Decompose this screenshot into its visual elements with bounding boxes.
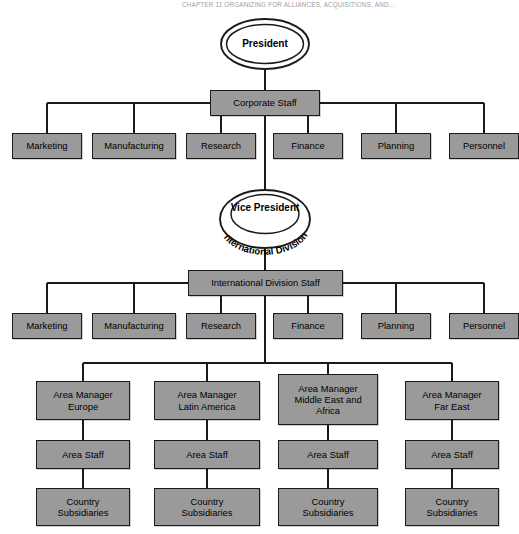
vice-president-label-line1: Vice [231,202,251,213]
node-corporate-planning[interactable]: Planning [361,133,431,159]
label: Research [199,320,243,331]
node-area-staff-middle-east-africa[interactable]: Area Staff [278,440,378,469]
label-line-1: Area Manager [420,389,483,400]
label: Manufacturing [102,140,165,151]
vice-president-label-line2: President [254,202,300,213]
label-line-1: Country [179,496,234,507]
node-area-manager-middle-east-africa[interactable]: Area Manager Middle East and Africa [278,374,378,425]
label-line-2: Subsidiaries [424,507,479,518]
label-line-1: Country [424,496,479,507]
node-area-manager-europe[interactable]: Area Manager Europe [36,381,130,420]
label-line-2: Middle East and [292,394,363,405]
label: Finance [289,140,326,151]
label-line-2: Far East [420,401,483,412]
node-division-marketing[interactable]: Marketing [12,313,82,339]
label: Personnel [461,140,507,151]
label: Planning [376,140,417,151]
label: Personnel [461,320,507,331]
label-line-1: Country [300,496,355,507]
node-division-personnel[interactable]: Personnel [449,313,519,339]
node-country-subsidiaries-europe[interactable]: Country Subsidiaries [36,488,130,526]
node-corporate-manufacturing[interactable]: Manufacturing [92,133,176,159]
node-country-subsidiaries-far-east[interactable]: Country Subsidiaries [405,488,499,526]
node-area-manager-latin-america[interactable]: Area Manager Latin America [154,381,260,420]
node-division-manufacturing[interactable]: Manufacturing [92,313,176,339]
node-division-finance[interactable]: Finance [273,313,343,339]
president-label: President [215,38,315,50]
label-line-1: Area Manager [292,383,363,394]
node-corporate-research[interactable]: Research [186,133,256,159]
label: Finance [289,320,326,331]
node-country-subsidiaries-latin-america[interactable]: Country Subsidiaries [154,488,260,526]
label-line-2: Subsidiaries [179,507,234,518]
node-corporate-personnel[interactable]: Personnel [449,133,519,159]
label-line-1: Area Manager [51,389,114,400]
label: Area Staff [305,449,351,460]
label: Planning [376,320,417,331]
label: Marketing [24,140,69,151]
label-line-1: Area Manager [175,389,238,400]
vice-president-label: Vice President [215,202,315,214]
node-corporate-finance[interactable]: Finance [273,133,343,159]
label-line-2: Subsidiaries [300,507,355,518]
label-line-3: Africa [292,405,363,416]
node-international-division-staff-label: International Division Staff [209,277,322,288]
label: Area Staff [184,449,230,460]
node-division-planning[interactable]: Planning [361,313,431,339]
label-line-2: Subsidiaries [55,507,110,518]
node-corporate-staff-label: Corporate Staff [231,97,298,108]
node-corporate-staff[interactable]: Corporate Staff [210,90,320,116]
label: Manufacturing [102,320,165,331]
label: Area Staff [429,449,475,460]
node-area-staff-far-east[interactable]: Area Staff [405,440,499,469]
node-international-division-staff[interactable]: International Division Staff [188,270,343,296]
label: Research [199,140,243,151]
node-corporate-marketing[interactable]: Marketing [12,133,82,159]
node-country-subsidiaries-middle-east-africa[interactable]: Country Subsidiaries [278,488,378,526]
node-area-staff-europe[interactable]: Area Staff [36,440,130,469]
label: Marketing [24,320,69,331]
label-line-2: Latin America [175,401,238,412]
label-line-1: Country [55,496,110,507]
node-area-staff-latin-america[interactable]: Area Staff [154,440,260,469]
node-division-research[interactable]: Research [186,313,256,339]
label-line-2: Europe [51,401,114,412]
node-area-manager-far-east[interactable]: Area Manager Far East [405,381,499,420]
label: Area Staff [60,449,106,460]
